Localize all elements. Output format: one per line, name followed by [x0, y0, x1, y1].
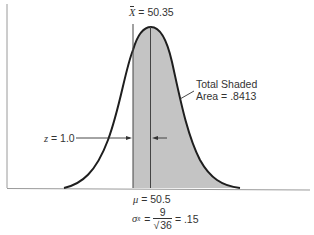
- z-arrowhead-left: [126, 136, 132, 140]
- sigma-label: σx̄ = 9 √36 = .15: [132, 206, 199, 232]
- x-axis: [7, 189, 310, 191]
- mu-label: μ = 50.5: [133, 194, 171, 206]
- z-label: z = 1.0: [44, 133, 75, 145]
- shaded-label-pointer: [180, 91, 194, 99]
- xbar-label: X = 50.35: [129, 7, 174, 19]
- shaded-area-label: Total Shaded Area = .8413: [196, 78, 257, 102]
- sigma-fraction: 9 √36: [153, 206, 171, 232]
- shaded-area: [133, 27, 240, 188]
